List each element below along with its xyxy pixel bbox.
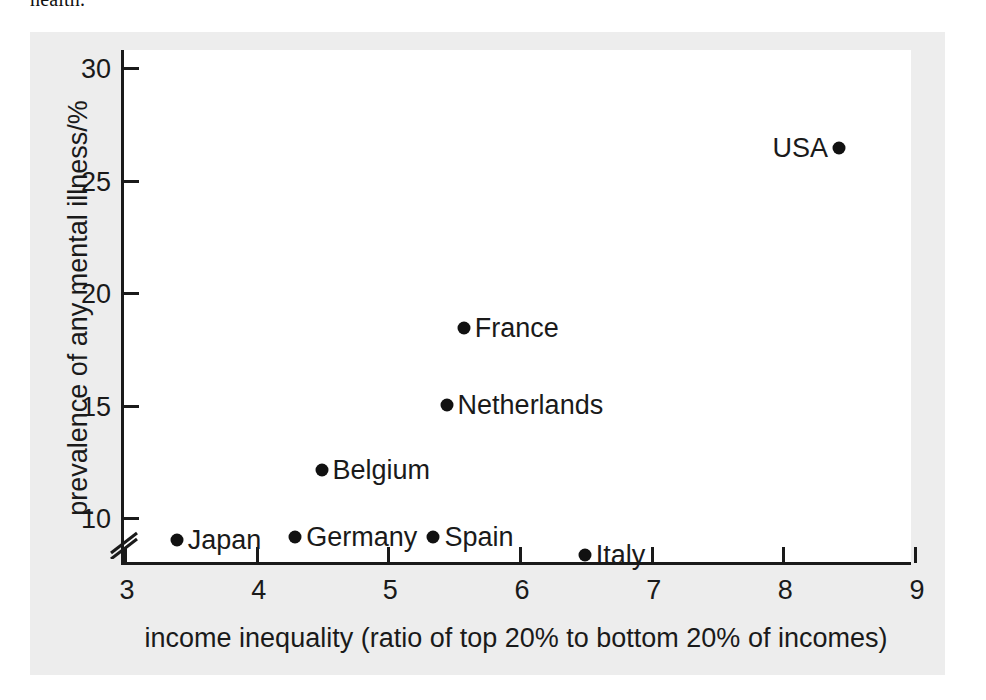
data-point-marker xyxy=(578,549,591,562)
data-point-label: France xyxy=(475,315,559,342)
x-tick-label: 5 xyxy=(383,577,398,604)
data-point-label: Japan xyxy=(188,526,262,553)
x-tick: 8 xyxy=(782,547,785,563)
data-point-marker xyxy=(457,322,470,335)
data-point-marker xyxy=(170,533,183,546)
y-tick: 15 xyxy=(123,405,139,408)
data-point-label: Germany xyxy=(306,524,417,551)
data-point-label: Belgium xyxy=(333,456,431,483)
caption-tail-text: health. xyxy=(30,0,85,11)
x-tick: 6 xyxy=(519,547,522,563)
y-tick: 25 xyxy=(123,180,139,183)
data-point-marker xyxy=(427,531,440,544)
data-point-marker xyxy=(289,531,302,544)
y-tick-label: 15 xyxy=(81,393,111,420)
x-axis-label: income inequality (ratio of top 20% to b… xyxy=(121,625,911,652)
x-tick-label: 9 xyxy=(909,577,924,604)
x-tick-label: 3 xyxy=(119,577,134,604)
x-tick: 3 xyxy=(124,547,127,563)
y-tick: 30 xyxy=(123,67,139,70)
x-tick: 7 xyxy=(651,547,654,563)
data-point-marker xyxy=(832,142,845,155)
data-point-marker xyxy=(315,463,328,476)
y-tick-label: 25 xyxy=(81,168,111,195)
y-tick: 10 xyxy=(123,517,139,520)
y-tick-label: 20 xyxy=(81,281,111,308)
x-tick-label: 7 xyxy=(646,577,661,604)
data-point-label: Netherlands xyxy=(458,391,604,418)
y-tick-label: 10 xyxy=(81,506,111,533)
data-point-label: USA xyxy=(772,135,828,162)
x-tick-label: 6 xyxy=(514,577,529,604)
figure-panel: prevalence of any mental illness/% 10152… xyxy=(30,32,945,675)
y-tick: 20 xyxy=(123,292,139,295)
x-tick-label: 8 xyxy=(778,577,793,604)
x-tick-label: 4 xyxy=(251,577,266,604)
data-point-label: Spain xyxy=(444,524,513,551)
plot-area: 1015202530 3456789 JapanGermanyBelgiumSp… xyxy=(121,50,911,565)
data-point-label: Italy xyxy=(596,542,646,569)
x-tick: 9 xyxy=(914,547,917,563)
y-tick-label: 30 xyxy=(81,56,111,83)
data-point-marker xyxy=(440,398,453,411)
